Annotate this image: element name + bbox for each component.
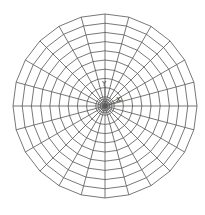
- mesh-spoke: [16, 106, 105, 130]
- mesh-spoke: [25, 60, 105, 106]
- mesh-spoke: [105, 26, 151, 106]
- mesh-spoke: [59, 106, 105, 186]
- y-axis-label: Y: [101, 80, 107, 88]
- polar-mesh-diagram: Y X: [0, 0, 205, 215]
- mesh-spoke: [25, 106, 105, 152]
- mesh-spoke: [105, 106, 185, 152]
- mesh-spoke: [105, 106, 194, 130]
- mesh-spoke: [81, 106, 105, 195]
- mesh-spoke: [105, 106, 129, 195]
- mesh-spoke: [59, 26, 105, 106]
- mesh-spoke: [16, 82, 105, 106]
- x-axis-label: X: [116, 96, 121, 104]
- mesh-spoke: [105, 17, 129, 106]
- mesh-spoke: [105, 106, 151, 186]
- mesh-spoke: [81, 17, 105, 106]
